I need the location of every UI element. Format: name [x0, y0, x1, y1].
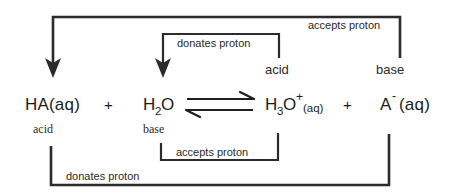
water-o: O	[161, 95, 174, 114]
hydronium-h: H	[265, 95, 277, 114]
role-label-acid-right: acid	[265, 62, 289, 77]
hydronium-o: O	[283, 95, 296, 114]
hydronium-state: (aq)	[303, 102, 324, 114]
species-hydronium: H 3 O + (aq)	[265, 90, 324, 117]
species-conjugate-base: A - (aq)	[380, 89, 430, 114]
conjugate-state: (aq)	[399, 95, 430, 114]
role-label-base-left: base	[143, 122, 164, 136]
conjugate-superscript: -	[392, 89, 396, 103]
hydronium-superscript: +	[296, 90, 303, 104]
role-label-acid-left: acid	[33, 122, 53, 136]
inner-bottom-annotation-label: accepts proton	[176, 146, 248, 158]
plus-sign-right: +	[343, 96, 352, 113]
annotation-inner-bottom-accepts-proton: accepts proton	[161, 133, 278, 160]
species-water: H 2 O	[143, 95, 174, 117]
annotation-inner-top-donates-proton: donates proton	[155, 34, 279, 78]
species-ha: HA (aq)	[25, 95, 80, 114]
outer-bottom-annotation-label: donates proton	[66, 170, 139, 182]
ha-formula: HA	[25, 95, 49, 114]
acid-base-diagram: accepts proton donates proton acid base …	[0, 0, 453, 196]
role-label-base-right: base	[376, 62, 404, 77]
plus-sign-left: +	[104, 96, 113, 113]
diagram-canvas: accepts proton donates proton acid base …	[0, 0, 453, 196]
outer-top-annotation-label: accepts proton	[308, 19, 380, 31]
conjugate-a: A	[380, 95, 392, 114]
inner-top-annotation-label: donates proton	[177, 37, 250, 49]
equilibrium-arrow-icon	[186, 92, 254, 117]
ha-state: (aq)	[49, 95, 80, 114]
water-h: H	[143, 95, 155, 114]
